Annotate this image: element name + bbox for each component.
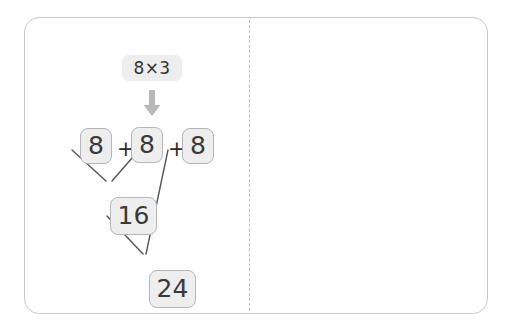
term-chip-3: 8 <box>182 128 214 164</box>
term-chip-2: 8 <box>131 127 163 163</box>
equation-steps-panel: 8×3 8 + 8 + 8 = ( 8 × 2 ) + 8 = 16 + 8 =… <box>249 17 488 314</box>
diagram-canvas: 8×3 8 + 8 + 8 16 24 8×3 <box>0 0 512 332</box>
arrow-down-icon <box>143 90 161 117</box>
left-expression-badge: 8×3 <box>122 55 182 81</box>
final-result-chip: 24 <box>149 270 196 308</box>
tree-diagram-panel: 8×3 8 + 8 + 8 16 24 <box>24 17 249 314</box>
intermediate-result-chip: 16 <box>110 197 157 235</box>
term-chip-1: 8 <box>80 128 112 164</box>
